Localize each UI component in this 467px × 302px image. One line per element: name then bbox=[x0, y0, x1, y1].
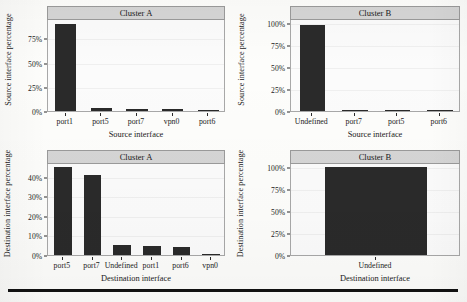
x-tick-row-bottom-right: Undefined bbox=[290, 257, 460, 273]
panel-top-left: Source interface percentageCluster A0%25… bbox=[0, 6, 233, 144]
plot-area-top-left bbox=[47, 20, 225, 112]
plot-area-bottom-right bbox=[290, 164, 460, 256]
panel-strip-title-top-left: Cluster A bbox=[47, 6, 225, 20]
x-tick-label-port7: port7 bbox=[128, 117, 144, 126]
strip-title-text: Cluster B bbox=[359, 8, 392, 18]
y-tick-mark bbox=[287, 90, 290, 91]
y-axis-label-text: Destination interface percentage bbox=[4, 149, 13, 257]
plot-area-bottom-left bbox=[47, 164, 225, 256]
y-tick-mark bbox=[44, 177, 47, 178]
panel-top-right: Source interface percentageCluster B0%25… bbox=[233, 6, 467, 144]
bar-port7 bbox=[84, 175, 102, 255]
y-tick-mark bbox=[287, 212, 290, 213]
x-tick-mark bbox=[207, 113, 208, 116]
x-tick-label-port5: port5 bbox=[92, 117, 108, 126]
y-tick-label: 0% bbox=[32, 108, 42, 117]
bar-port7 bbox=[126, 109, 147, 111]
panel-strip-title-bottom-left: Cluster A bbox=[47, 150, 225, 164]
y-tick-label: 50% bbox=[28, 59, 42, 68]
x-tick-mark bbox=[100, 113, 101, 116]
gridline-horizontal bbox=[48, 217, 224, 218]
y-tick-mark bbox=[44, 63, 47, 64]
panel-strip-title-top-right: Cluster B bbox=[290, 6, 460, 20]
x-tick-row-top-left: port1port5port7vpn0port6 bbox=[47, 113, 225, 129]
y-tick-mark bbox=[44, 197, 47, 198]
figure-panel-grid: Source interface percentageCluster A0%25… bbox=[0, 0, 467, 288]
bar-port1 bbox=[55, 24, 76, 111]
x-tick-label-Undefined: Undefined bbox=[359, 261, 392, 270]
bar-port1 bbox=[143, 246, 161, 255]
strip-title-text: Cluster B bbox=[359, 152, 392, 162]
bar-vpn0 bbox=[202, 254, 220, 255]
x-tick-label-port6: port6 bbox=[199, 117, 215, 126]
x-tick-label-port5: port5 bbox=[54, 261, 70, 270]
gridline-horizontal bbox=[48, 178, 224, 179]
panel-bottom-left: Destination interface percentageCluster … bbox=[0, 150, 233, 288]
y-tick-label: 75% bbox=[271, 42, 285, 51]
x-tick-mark bbox=[354, 113, 355, 116]
x-tick-mark bbox=[65, 113, 66, 116]
panel-strip-title-bottom-right: Cluster B bbox=[290, 150, 460, 164]
y-tick-column-top-right: 0%25%50%75%100% bbox=[260, 20, 290, 112]
y-tick-mark bbox=[287, 190, 290, 191]
x-axis-label-top-right: Source interface bbox=[290, 130, 460, 139]
y-tick-column-bottom-right: 0%25%50%75%100% bbox=[260, 164, 290, 256]
y-tick-mark bbox=[287, 234, 290, 235]
bar-port6 bbox=[198, 110, 219, 111]
x-tick-mark bbox=[396, 113, 397, 116]
bar-port5 bbox=[385, 110, 411, 111]
strip-title-text: Cluster A bbox=[120, 152, 153, 162]
gridline-horizontal bbox=[48, 236, 224, 237]
x-tick-label-vpn0: vpn0 bbox=[202, 261, 218, 270]
y-axis-label-text: Source interface percentage bbox=[4, 13, 13, 105]
y-tick-label: 0% bbox=[32, 252, 42, 261]
y-tick-label: 75% bbox=[28, 35, 42, 44]
y-tick-mark bbox=[287, 24, 290, 25]
y-tick-label: 25% bbox=[28, 83, 42, 92]
y-axis-label-bottom-left: Destination interface percentage bbox=[0, 150, 16, 256]
y-tick-label: 10% bbox=[28, 232, 42, 241]
y-tick-label: 75% bbox=[271, 186, 285, 195]
y-axis-label-top-right: Source interface percentage bbox=[233, 6, 249, 112]
y-tick-mark bbox=[44, 39, 47, 40]
x-tick-mark bbox=[311, 113, 312, 116]
panel-bottom-right: Destination interface percentageCluster … bbox=[233, 150, 467, 288]
bar-Undefined bbox=[113, 245, 131, 255]
bar-port7 bbox=[342, 110, 368, 111]
x-tick-label-port7: port7 bbox=[346, 117, 362, 126]
y-tick-label: 0% bbox=[275, 108, 285, 117]
y-axis-label-text: Destination interface percentage bbox=[237, 149, 246, 257]
y-axis-label-bottom-right: Destination interface percentage bbox=[233, 150, 249, 256]
y-tick-label: 40% bbox=[28, 173, 42, 182]
x-tick-label-Undefined: Undefined bbox=[105, 261, 138, 270]
y-tick-label: 20% bbox=[28, 212, 42, 221]
x-tick-mark bbox=[121, 257, 122, 260]
y-axis-label-top-left: Source interface percentage bbox=[0, 6, 16, 112]
y-tick-label: 50% bbox=[271, 208, 285, 217]
bar-Undefined bbox=[325, 167, 427, 255]
y-tick-label: 25% bbox=[271, 86, 285, 95]
x-tick-mark bbox=[439, 113, 440, 116]
y-tick-mark bbox=[44, 216, 47, 217]
x-tick-mark bbox=[375, 257, 376, 260]
plot-area-top-right bbox=[290, 20, 460, 112]
horizontal-rule bbox=[8, 289, 458, 292]
y-tick-mark bbox=[44, 87, 47, 88]
bar-vpn0 bbox=[162, 109, 183, 111]
y-tick-label: 100% bbox=[267, 164, 285, 173]
y-tick-label: 30% bbox=[28, 193, 42, 202]
y-tick-mark bbox=[287, 168, 290, 169]
x-tick-row-bottom-left: port5port7Undefinedport1port6vpn0 bbox=[47, 257, 225, 273]
gridline-horizontal bbox=[48, 197, 224, 198]
y-tick-mark bbox=[287, 46, 290, 47]
x-axis-label-bottom-left: Destination interface bbox=[47, 274, 225, 283]
x-tick-label-port1: port1 bbox=[143, 261, 159, 270]
x-tick-label-port7: port7 bbox=[83, 261, 99, 270]
bar-port5 bbox=[54, 167, 72, 255]
x-tick-mark bbox=[181, 257, 182, 260]
strip-title-text: Cluster A bbox=[120, 8, 153, 18]
x-tick-mark bbox=[62, 257, 63, 260]
y-tick-column-top-left: 0%25%50%75% bbox=[17, 20, 47, 112]
x-axis-label-bottom-right: Destination interface bbox=[290, 274, 460, 283]
x-tick-mark bbox=[151, 257, 152, 260]
